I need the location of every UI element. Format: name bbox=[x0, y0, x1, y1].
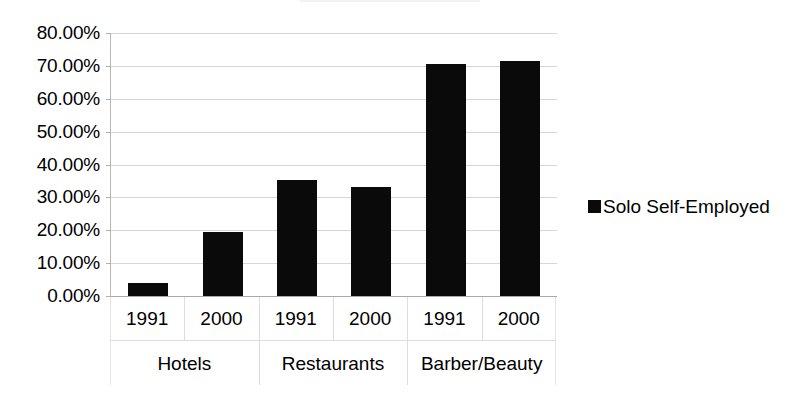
x-axis-group-row: HotelsRestaurantsBarber/Beauty bbox=[110, 341, 556, 385]
x-axis-separator bbox=[482, 297, 483, 341]
y-axis-labels: 80.00%70.00%60.00%50.00%40.00%30.00%20.0… bbox=[0, 0, 100, 404]
y-axis-tick-label: 70.00% bbox=[0, 56, 100, 75]
bar-chart: 80.00%70.00%60.00%50.00%40.00%30.00%20.0… bbox=[0, 0, 804, 404]
bar bbox=[128, 283, 168, 296]
x-axis-edge bbox=[555, 297, 556, 385]
x-axis-year-label: 2000 bbox=[482, 297, 556, 340]
x-axis-separator bbox=[407, 297, 408, 385]
scan-artifact bbox=[300, 0, 480, 2]
bar bbox=[203, 232, 243, 296]
y-axis-tick-label: 10.00% bbox=[0, 253, 100, 272]
x-axis-separator bbox=[259, 297, 260, 385]
legend-label: Solo Self-Employed bbox=[603, 197, 770, 216]
x-axis-separator bbox=[333, 297, 334, 341]
y-axis-tick-label: 60.00% bbox=[0, 89, 100, 108]
y-axis-tick-label: 20.00% bbox=[0, 220, 100, 239]
x-axis-separator bbox=[184, 297, 185, 341]
y-axis-tick-label: 50.00% bbox=[0, 122, 100, 141]
bar-series-solo-self-employed bbox=[111, 33, 557, 296]
x-axis-edge bbox=[110, 297, 111, 385]
y-axis-tick-label: 0.00% bbox=[0, 286, 100, 305]
x-axis-year-label: 2000 bbox=[184, 297, 258, 340]
legend-swatch-icon bbox=[588, 200, 601, 213]
x-axis-group-label: Hotels bbox=[110, 341, 259, 385]
x-axis-year-label: 1991 bbox=[259, 297, 333, 340]
plot-area bbox=[110, 33, 557, 297]
y-axis-tick-label: 80.00% bbox=[0, 23, 100, 42]
bar bbox=[426, 64, 466, 296]
bar bbox=[500, 61, 540, 296]
x-axis-year-label: 2000 bbox=[333, 297, 407, 340]
x-axis-year-label: 1991 bbox=[110, 297, 184, 340]
bar bbox=[351, 187, 391, 296]
chart-legend: Solo Self-Employed bbox=[588, 194, 770, 218]
x-axis: 199120001991200019912000 HotelsRestauran… bbox=[110, 297, 556, 385]
bar bbox=[277, 180, 317, 296]
y-axis-tick-label: 40.00% bbox=[0, 155, 100, 174]
x-axis-year-label: 1991 bbox=[407, 297, 481, 340]
x-axis-group-label: Restaurants bbox=[259, 341, 408, 385]
x-axis-group-label: Barber/Beauty bbox=[407, 341, 556, 385]
y-axis-tick-label: 30.00% bbox=[0, 187, 100, 206]
